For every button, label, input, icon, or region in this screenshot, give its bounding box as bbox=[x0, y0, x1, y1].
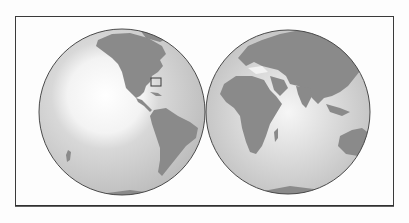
eastern-hemisphere bbox=[206, 30, 370, 200]
western-hemisphere bbox=[39, 29, 205, 202]
world-map bbox=[0, 0, 409, 223]
